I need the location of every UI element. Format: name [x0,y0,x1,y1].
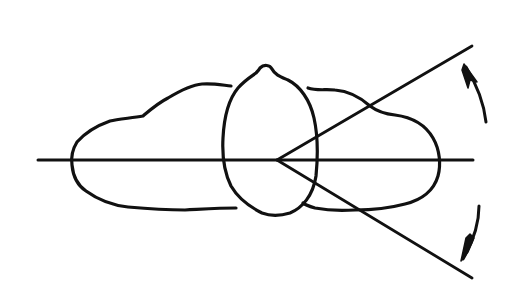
lower-rotation-arrow [461,206,479,261]
lower-arrowhead-icon [461,234,474,261]
center-lobe [223,65,318,215]
upper-rotation-arrow [462,64,486,122]
upper-ray [277,46,472,160]
lower-ray [277,160,472,278]
left-lobe [72,84,236,210]
pattern-diagram [0,0,517,296]
diagram-canvas: Hand-drawn polar/radiation pattern sketc… [0,0,517,296]
